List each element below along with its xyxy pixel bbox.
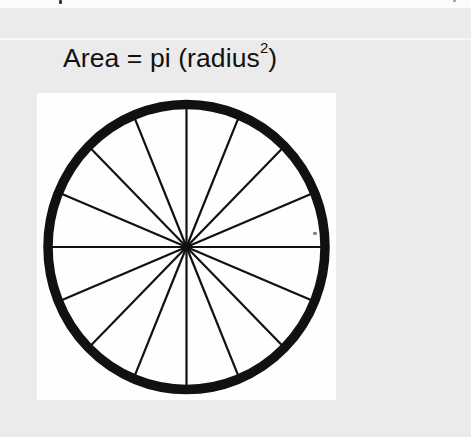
cropped-glyph: [453, 0, 456, 2]
area-formula: Area = pi (radius2): [63, 40, 277, 76]
spoke: [90, 247, 186, 346]
cropped-glyph: [59, 0, 62, 4]
circle-figure: [37, 93, 336, 400]
stray-mark: [313, 232, 317, 235]
formula-prefix: Area = pi (radius: [63, 43, 260, 73]
circle-diagram: [37, 93, 336, 400]
cropped-text-strip: [0, 0, 471, 8]
spoke: [90, 148, 186, 247]
formula-superscript: 2: [260, 39, 268, 56]
spoke: [187, 148, 283, 247]
formula-suffix: ): [268, 43, 277, 73]
center-point: [183, 244, 190, 251]
spoke: [187, 247, 283, 346]
